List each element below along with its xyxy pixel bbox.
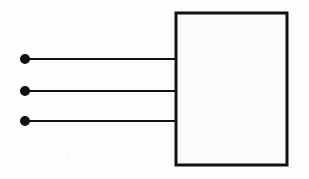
terminal-dot-2[interactable]	[20, 86, 30, 96]
block-diagram-figure	[0, 0, 309, 179]
diagram-canvas	[0, 0, 309, 179]
terminal-dot-3[interactable]	[20, 116, 30, 126]
terminal-dot-1[interactable]	[20, 54, 30, 64]
main-block-rect[interactable]	[176, 13, 287, 165]
